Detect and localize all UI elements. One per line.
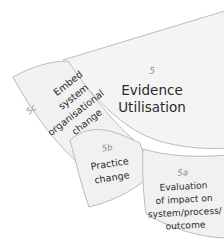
segment-5-code: 5	[149, 66, 155, 76]
fan-diagram: 5 Evidence Utilisation 5c Embed system o…	[0, 0, 224, 240]
segment-5a-code: 5a	[177, 167, 188, 178]
segment-5-title-line-2: Utilisation	[118, 99, 186, 115]
segment-5a-group[interactable]: 5a Evaluation of impact on system/proces…	[143, 149, 224, 238]
fan-diagram-svg: 5 Evidence Utilisation 5c Embed system o…	[0, 0, 224, 240]
segment-5a-title-line-4: outcome	[165, 219, 206, 231]
segment-5b-code: 5b	[101, 142, 113, 154]
segment-5-title-line-1: Evidence	[121, 82, 182, 98]
segment-5b-group[interactable]: 5b Practice change	[70, 130, 151, 207]
